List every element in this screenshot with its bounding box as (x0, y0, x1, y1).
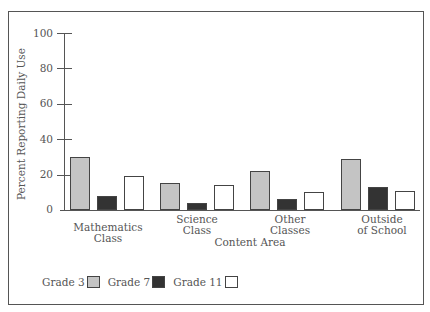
y-tick-60 (57, 104, 72, 105)
y-tick-40 (57, 139, 72, 140)
y-tick-80 (57, 68, 72, 69)
y-tick-label-0: 0 (27, 203, 53, 215)
legend-swatch-grade-3 (87, 276, 100, 288)
x-label-line: Class (152, 225, 242, 236)
bar-grade-7-mathematics-class (97, 196, 117, 210)
bar-grade-7-science-class (187, 203, 207, 210)
bar-grade-11-outside-of-school (395, 191, 415, 210)
legend: Grade 3 Grade 7 Grade 11 (42, 276, 246, 288)
y-tick-label-100: 100 (27, 27, 53, 39)
y-tick-label-20: 20 (27, 168, 53, 180)
x-label-line: Classes (245, 225, 335, 236)
bar-grade-3-other-classes (250, 171, 270, 210)
legend-swatch-grade-7 (152, 276, 165, 288)
legend-swatch-grade-11 (225, 276, 238, 288)
y-axis-title: Percent Reporting Daily Use (15, 48, 27, 200)
x-label-outside: Outside of School (337, 214, 427, 236)
legend-label: Grade 11 (173, 276, 222, 288)
bar-grade-11-mathematics-class (124, 176, 144, 210)
bar-grade-3-science-class (160, 183, 180, 210)
legend-item-grade-3: Grade 3 (42, 276, 100, 288)
legend-item-grade-7: Grade 7 (108, 276, 166, 288)
bar-grade-7-outside-of-school (368, 187, 388, 210)
x-axis-title: Content Area (190, 236, 310, 248)
y-tick-label-60: 60 (27, 97, 53, 109)
x-label-line: Class (63, 233, 153, 244)
bar-grade-3-outside-of-school (341, 159, 361, 210)
legend-label: Grade 7 (108, 276, 151, 288)
legend-label: Grade 3 (42, 276, 85, 288)
y-tick-100 (57, 33, 72, 34)
bar-grade-3-mathematics-class (70, 157, 90, 210)
y-axis-line (64, 33, 65, 210)
bar-grade-7-other-classes (277, 199, 297, 210)
x-label-mathematics: Mathematics Class (63, 222, 153, 244)
legend-item-grade-11: Grade 11 (173, 276, 237, 288)
y-tick-label-40: 40 (27, 133, 53, 145)
x-label-line: of School (337, 225, 427, 236)
x-label-other: Other Classes (245, 214, 335, 236)
x-label-science: Science Class (152, 214, 242, 236)
bar-grade-11-other-classes (304, 192, 324, 210)
x-axis-line (60, 210, 420, 211)
y-tick-label-80: 80 (27, 62, 53, 74)
bar-grade-11-science-class (214, 185, 234, 210)
